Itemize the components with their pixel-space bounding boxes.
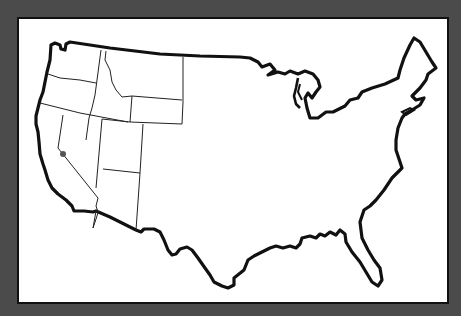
map-frame [0,0,461,316]
us-map [0,0,461,316]
great-lakes-detail-2 [298,84,302,100]
us-outline [36,38,436,288]
location-marker [60,151,66,157]
state-borders [40,50,183,230]
